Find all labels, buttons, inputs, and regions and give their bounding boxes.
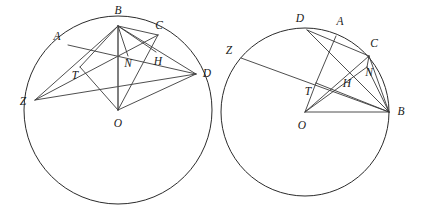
right-point-label-Z: Z (226, 44, 233, 56)
right-segment-T-to-B (316, 83, 389, 112)
left-point-label-T: T (72, 69, 80, 81)
left-point-label-D: D (202, 67, 212, 79)
left-segment-O-to-C (118, 35, 158, 110)
left-segment-B-to-N (118, 26, 128, 56)
geometry-figure-root: BOZDACTNH OBZDACTHN (0, 0, 424, 215)
left-point-label-A: A (52, 30, 61, 42)
left-point-label-H: H (153, 55, 163, 67)
left-point-label-B: B (114, 4, 121, 16)
right-point-label-B: B (397, 105, 404, 117)
left-segment-B-to-T (80, 26, 118, 67)
right-point-label-O: O (298, 119, 307, 131)
left-segment-O-to-D (118, 74, 196, 110)
right-segment-D-to-C (307, 30, 369, 56)
right-segment-O-to-N (305, 67, 367, 112)
left-point-label-O: O (114, 117, 123, 129)
left-point-label-N: N (123, 57, 133, 69)
geometry-canvas: BOZDACTNH OBZDACTHN (0, 0, 424, 215)
right-point-label-H: H (342, 77, 352, 89)
right-circle-figure: OBZDACTHN (221, 12, 405, 196)
right-point-label-D: D (295, 12, 305, 24)
right-segment-C-to-B (369, 56, 389, 112)
left-segment-O-to-T (80, 67, 118, 110)
right-point-label-A: A (335, 15, 344, 27)
left-point-label-C: C (155, 19, 163, 31)
left-point-label-Z: Z (20, 95, 27, 107)
left-circle-figure: BOZDACTNH (20, 4, 212, 204)
right-point-label-N: N (364, 66, 374, 78)
right-segment-O-to-C (305, 56, 369, 112)
right-segment-A-to-T (316, 36, 336, 83)
right-point-label-C: C (370, 37, 378, 49)
